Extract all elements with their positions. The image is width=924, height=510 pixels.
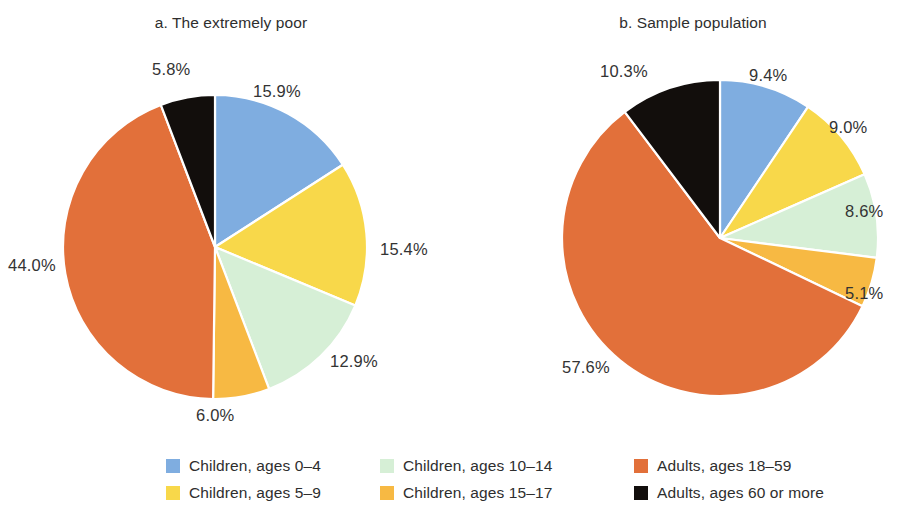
pie-slice-value-label: 9.0% bbox=[829, 118, 867, 137]
legend-item[interactable]: Children, ages 5–9 bbox=[166, 479, 321, 506]
legend-item[interactable]: Adults, ages 60 or more bbox=[634, 479, 824, 506]
pie-chart-figure: a. The extremely poor 15.9%15.4%12.9%6.0… bbox=[0, 0, 924, 510]
legend-item-label: Children, ages 15–17 bbox=[403, 484, 552, 502]
legend-swatch-children-5-9 bbox=[166, 486, 180, 500]
legend-column-2: Children, ages 10–14Children, ages 15–17 bbox=[380, 452, 552, 506]
legend-item[interactable]: Children, ages 10–14 bbox=[380, 452, 552, 479]
legend-column-3: Adults, ages 18–59Adults, ages 60 or mor… bbox=[634, 452, 824, 506]
pie-slice-value-label: 5.1% bbox=[845, 284, 883, 303]
pie-slice-value-label: 6.0% bbox=[196, 406, 234, 425]
pie-slice-value-label: 5.8% bbox=[152, 60, 190, 79]
pie-slice-value-label: 57.6% bbox=[562, 358, 610, 377]
legend-swatch-adults-60-plus bbox=[634, 486, 648, 500]
legend-item[interactable]: Children, ages 0–4 bbox=[166, 452, 321, 479]
chart-panel-a: a. The extremely poor 15.9%15.4%12.9%6.0… bbox=[0, 0, 462, 450]
legend-item[interactable]: Children, ages 15–17 bbox=[380, 479, 552, 506]
pie-b-area: 9.4%9.0%8.6%5.1%57.6%10.3% bbox=[462, 0, 924, 450]
legend-item-label: Children, ages 10–14 bbox=[403, 457, 552, 475]
pie-slice-value-label: 15.4% bbox=[380, 240, 428, 259]
legend-item-label: Adults, ages 18–59 bbox=[657, 457, 792, 475]
pie-slice-value-label: 12.9% bbox=[330, 352, 378, 371]
legend-swatch-children-0-4 bbox=[166, 459, 180, 473]
pie-slice-value-label: 15.9% bbox=[253, 82, 301, 101]
legend-item-label: Children, ages 0–4 bbox=[189, 457, 321, 475]
pie-slice-value-label: 10.3% bbox=[600, 62, 648, 81]
pie-slice-value-label: 9.4% bbox=[749, 66, 787, 85]
legend-item-label: Adults, ages 60 or more bbox=[657, 484, 824, 502]
legend-item[interactable]: Adults, ages 18–59 bbox=[634, 452, 824, 479]
legend-swatch-adults-18-59 bbox=[634, 459, 648, 473]
legend-column-1: Children, ages 0–4Children, ages 5–9 bbox=[166, 452, 321, 506]
legend-swatch-children-10-14 bbox=[380, 459, 394, 473]
pie-slice-value-label: 8.6% bbox=[845, 202, 883, 221]
pie-b bbox=[462, 0, 924, 450]
chart-panel-b: b. Sample population 9.4%9.0%8.6%5.1%57.… bbox=[462, 0, 924, 450]
pie-a-area: 15.9%15.4%12.9%6.0%44.0%5.8% bbox=[0, 0, 462, 450]
chart-legend: Children, ages 0–4Children, ages 5–9 Chi… bbox=[0, 452, 924, 510]
pie-a bbox=[0, 0, 462, 450]
pie-slice-value-label: 44.0% bbox=[8, 256, 56, 275]
legend-item-label: Children, ages 5–9 bbox=[189, 484, 321, 502]
legend-swatch-children-15-17 bbox=[380, 486, 394, 500]
